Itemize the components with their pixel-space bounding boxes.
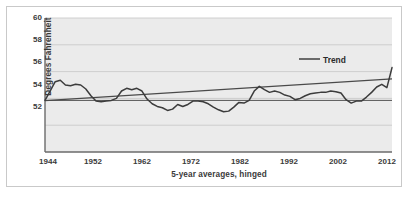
xtick-label-1952: 1952 (76, 157, 110, 166)
ytick-label-60: 60 (20, 13, 42, 22)
ytick-label-54: 54 (20, 80, 42, 89)
y-axis-title: Degrees Fahrenheit (44, 7, 53, 107)
xtick-label-1944: 1944 (31, 157, 65, 166)
legend-label-trend: Trend (323, 55, 346, 65)
xtick-label-1972: 1972 (174, 157, 208, 166)
ytick-label-58: 58 (20, 35, 42, 44)
xtick-label-2002: 2002 (321, 157, 355, 166)
plot-area-wrapper: 60 58 56 54 52 1944 1952 1962 1972 1982 … (0, 0, 415, 209)
chart-figure: 60 58 56 54 52 1944 1952 1962 1972 1982 … (0, 0, 415, 209)
xtick-label-1982: 1982 (223, 157, 257, 166)
ytick-label-56: 56 (20, 57, 42, 66)
plot-background (45, 18, 392, 152)
figure-caption (22, 192, 402, 200)
ytick-label-52: 52 (20, 102, 42, 111)
xtick-label-1962: 1962 (125, 157, 159, 166)
x-axis-title: 5-year averages, hinged (45, 170, 393, 179)
xtick-label-1992: 1992 (272, 157, 306, 166)
xtick-label-2012: 2012 (370, 157, 404, 166)
